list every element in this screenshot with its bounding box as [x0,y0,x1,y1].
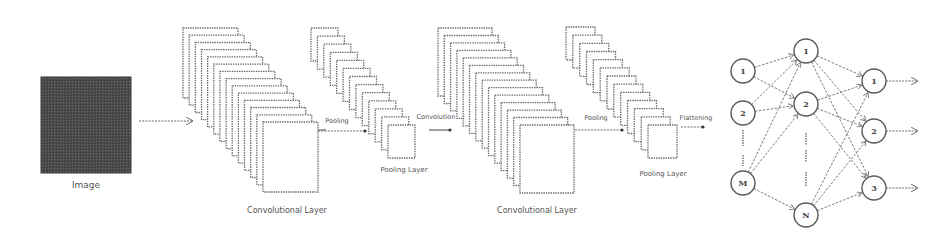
pooling-connector-1 [318,129,325,130]
network-edge [814,113,866,178]
output-node-2-label: 2 [871,126,877,136]
hidden-node-2-label: 2 [803,99,809,109]
network-edge [814,141,866,206]
convolution-transition-label: Convolution [417,113,456,121]
output-node-3-label: 3 [871,183,877,193]
input-node-2: 2 [731,101,755,125]
network-edge [817,193,862,211]
pooling-layer-1-label: Pooling Layer [380,166,427,174]
output-node-3: 3 [862,176,886,200]
hidden-node-n: N [794,203,818,227]
input-image-label: Image [72,180,101,190]
hidden-node-n-label: N [802,210,809,220]
pooling-transition-label-1: Pooling [325,117,349,125]
hidden-node-1: 1 [794,39,818,63]
hidden-node-2: 2 [794,92,818,116]
network-edge [754,188,795,209]
network-edge [752,60,797,105]
input-node-1-label: 1 [740,66,746,76]
cnn-architecture-diagram: Image Convolutional Layer Pooling Poolin… [0,0,951,238]
feature-map-sheet [263,122,318,192]
feature-map-sheet [520,125,574,193]
output-node-2: 2 [862,119,886,143]
flattening-transition-label: Flattening [680,114,713,122]
pooling-transition-label-2: Pooling [584,114,608,122]
input-image-square [41,77,131,173]
network-edge [751,114,798,173]
feature-map-sheet [648,125,677,158]
network-edge [748,63,800,173]
input-node-2-label: 2 [740,108,746,118]
fully-connected-network: 1 2 M 1 2 N 1 2 [731,39,918,227]
conv-layer-2-stack [438,28,574,193]
network-edge [817,56,862,76]
output-node-1: 1 [862,69,886,93]
conv-layer-1-stack [183,28,318,192]
input-node-m: M [731,171,755,195]
pooling-layer-2-label: Pooling Layer [639,170,686,178]
network-edge [814,60,866,121]
input-node-m-label: M [739,178,748,188]
network-edge [755,106,793,112]
input-node-1: 1 [731,59,755,83]
input-image: Image [41,77,131,190]
pooling-layer-1-stack [311,28,415,158]
network-edges [748,55,868,211]
feature-map-sheet [388,125,415,158]
conv-layer-2-label: Convolutional Layer [497,206,577,215]
conv-layer-1-label: Convolutional Layer [247,206,327,215]
network-edge [754,55,793,68]
output-node-1-label: 1 [871,76,877,86]
network-edge [811,62,868,177]
hidden-node-1-label: 1 [803,46,809,56]
pooling-layer-2-stack [566,27,677,158]
